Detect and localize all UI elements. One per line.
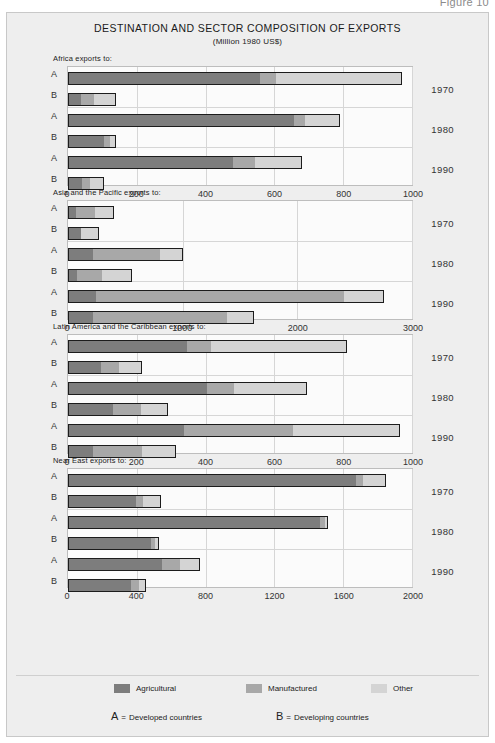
bar-segment-other <box>81 228 98 239</box>
stacked-bar <box>68 382 307 395</box>
panel-title: Africa exports to: <box>53 54 488 63</box>
chart-panel: Africa exports to:ABABAB1970198019900200… <box>7 54 488 186</box>
plot-area <box>67 334 413 454</box>
row-label-a: A <box>51 203 65 213</box>
legend-label: Manufactured <box>268 684 317 693</box>
gridline-vertical <box>412 335 413 453</box>
bar-segment-other <box>255 157 301 168</box>
legend-definition-key: A <box>111 710 118 722</box>
bar-segment-other <box>95 207 113 218</box>
bar-segment-other <box>110 136 115 147</box>
stacked-bar <box>68 495 161 508</box>
bar-segment-manufactured <box>101 362 119 373</box>
bar-segment-manufactured <box>113 404 142 415</box>
stacked-bar <box>68 403 168 416</box>
bar-row <box>68 156 302 169</box>
bar-segment-agricultural <box>69 517 320 528</box>
stacked-bar <box>68 558 200 571</box>
gridline-vertical <box>412 201 413 319</box>
plot-area <box>67 66 413 186</box>
x-axis-tick: 2000 <box>403 591 423 601</box>
bar-segment-other <box>234 383 306 394</box>
gridline-vertical <box>412 67 413 185</box>
panel-title: Near East exports to: <box>53 456 488 465</box>
chart-panel: Asia and the Pacific exports to:ABABAB19… <box>7 188 488 320</box>
bar-segment-agricultural <box>69 341 187 352</box>
x-axis-tick: 400 <box>129 591 144 601</box>
gridline-horizontal <box>68 375 412 376</box>
bar-segment-agricultural <box>69 228 81 239</box>
bar-segment-other <box>160 249 181 260</box>
legend-swatch-icon <box>246 684 262 693</box>
panel-title: Latin America and the Caribbean exports … <box>53 322 488 331</box>
bar-segment-other <box>155 538 158 549</box>
bar-segment-manufactured <box>207 383 234 394</box>
bar-segment-manufactured <box>76 207 96 218</box>
bar-segment-agricultural <box>69 157 233 168</box>
bar-segment-other <box>276 73 401 84</box>
bar-segment-manufactured <box>136 496 143 507</box>
stacked-bar <box>68 340 347 353</box>
year-label: 1980 <box>431 392 454 403</box>
x-axis: 0400800120016002000 <box>67 589 413 605</box>
bar-row <box>68 537 159 550</box>
plot-area <box>67 468 413 588</box>
panel-body: ABABAB19701980199002004006008001000 <box>7 334 488 454</box>
bar-row <box>68 206 114 219</box>
year-label: 1990 <box>431 432 454 443</box>
bar-segment-other <box>143 496 160 507</box>
legend-definition-key: B <box>276 710 283 722</box>
bar-segment-other <box>293 425 399 436</box>
stacked-bar <box>68 248 183 261</box>
legend-item-manufactured: Manufactured <box>246 684 317 693</box>
bar-row <box>68 72 402 85</box>
legend-item-other: Other <box>371 684 413 693</box>
stacked-bar <box>68 135 116 148</box>
chart-title: DESTINATION AND SECTOR COMPOSITION OF EX… <box>7 22 488 34</box>
row-label-b: B <box>51 224 65 234</box>
bar-row <box>68 516 328 529</box>
bar-row <box>68 403 168 416</box>
row-label-b: B <box>51 534 65 544</box>
year-label: 1970 <box>431 218 454 229</box>
legend-label: Agricultural <box>136 684 176 693</box>
figure-frame: DESTINATION AND SECTOR COMPOSITION OF EX… <box>6 12 489 737</box>
bar-segment-other <box>211 341 346 352</box>
row-label-a: A <box>51 287 65 297</box>
row-label-b: B <box>51 308 65 318</box>
stacked-bar <box>68 72 402 85</box>
bar-segment-manufactured <box>77 270 103 281</box>
bar-segment-manufactured <box>294 115 304 126</box>
legend-definition-equals: = <box>286 713 291 722</box>
bar-segment-agricultural <box>69 362 101 373</box>
chart-panel: Near East exports to:ABABAB1970198019900… <box>7 456 488 588</box>
bar-row <box>68 474 386 487</box>
panel-title: Asia and the Pacific exports to: <box>53 188 488 197</box>
legend-definition-text: Developed countries <box>129 713 202 722</box>
bar-segment-agricultural <box>69 538 151 549</box>
bar-row <box>68 248 183 261</box>
bar-segment-agricultural <box>69 115 294 126</box>
year-label: 1970 <box>431 352 454 363</box>
stacked-bar <box>68 537 159 550</box>
row-label-a: A <box>51 245 65 255</box>
bar-segment-manufactured <box>356 475 363 486</box>
x-axis-tick: 1600 <box>334 591 354 601</box>
legend-series-row: AgriculturalManufacturedOther <box>16 684 479 704</box>
row-label-a: A <box>51 421 65 431</box>
bar-row <box>68 361 142 374</box>
chart-subtitle: (Million 1980 US$) <box>7 37 488 46</box>
year-label: 1990 <box>431 298 454 309</box>
bar-segment-other <box>344 291 383 302</box>
bar-segment-agricultural <box>69 207 76 218</box>
row-label-b: B <box>51 492 65 502</box>
chart-legend: AgriculturalManufacturedOther A=Develope… <box>16 675 479 728</box>
year-label: 1970 <box>431 84 454 95</box>
gridline-horizontal <box>68 241 412 242</box>
bar-segment-agricultural <box>69 559 162 570</box>
bar-segment-other <box>363 475 385 486</box>
row-label-a: A <box>51 555 65 565</box>
gridline-vertical <box>412 469 413 587</box>
bar-row <box>68 93 116 106</box>
bar-segment-manufactured <box>96 291 343 302</box>
